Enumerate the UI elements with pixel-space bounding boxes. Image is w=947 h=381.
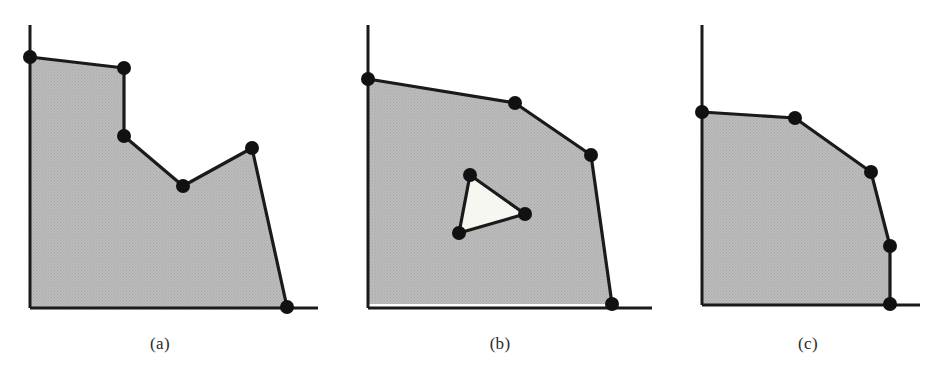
vertex-dot-a-5 bbox=[280, 300, 294, 314]
vertex-dot-a-2 bbox=[117, 129, 131, 143]
vertex-dot-c-3 bbox=[883, 239, 897, 253]
panel-a bbox=[23, 25, 318, 314]
vertex-dot-a-1 bbox=[117, 61, 131, 75]
vertex-dot-c-2 bbox=[864, 165, 878, 179]
vertex-dot-b-2 bbox=[584, 148, 598, 162]
vertex-dot-b-5 bbox=[518, 207, 532, 221]
panel-b bbox=[361, 25, 652, 311]
vertex-dot-a-3 bbox=[176, 179, 190, 193]
polygon-diagram bbox=[0, 0, 947, 381]
vertex-dot-a-4 bbox=[245, 141, 259, 155]
panel-caption-b: (b) bbox=[440, 334, 560, 354]
region-fill-a bbox=[30, 57, 287, 307]
vertex-dot-c-0 bbox=[695, 105, 709, 119]
vertex-dot-b-0 bbox=[361, 72, 375, 86]
region-fill-c bbox=[702, 112, 890, 304]
figure-container: (a) (b) (c) bbox=[0, 0, 947, 381]
vertex-dot-b-6 bbox=[452, 226, 466, 240]
vertex-dot-c-1 bbox=[788, 111, 802, 125]
vertex-dot-a-0 bbox=[23, 50, 37, 64]
panel-caption-c: (c) bbox=[748, 334, 868, 354]
vertex-dot-b-1 bbox=[508, 96, 522, 110]
vertex-dot-b-3 bbox=[605, 297, 619, 311]
panel-caption-a: (a) bbox=[100, 334, 220, 354]
vertex-dot-b-4 bbox=[463, 168, 477, 182]
panel-c bbox=[695, 25, 920, 311]
vertex-dot-c-4 bbox=[883, 297, 897, 311]
